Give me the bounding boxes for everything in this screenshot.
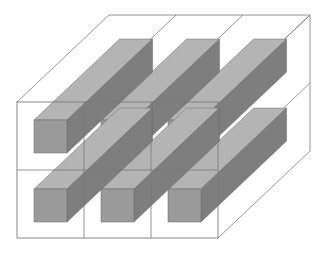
bars-group: [34, 39, 287, 222]
bar-front-face: [101, 189, 134, 222]
bar-front-face: [34, 189, 67, 222]
bar-front-face: [168, 189, 201, 222]
bar-front-face: [34, 120, 67, 153]
bar-array-diagram: [0, 0, 325, 255]
